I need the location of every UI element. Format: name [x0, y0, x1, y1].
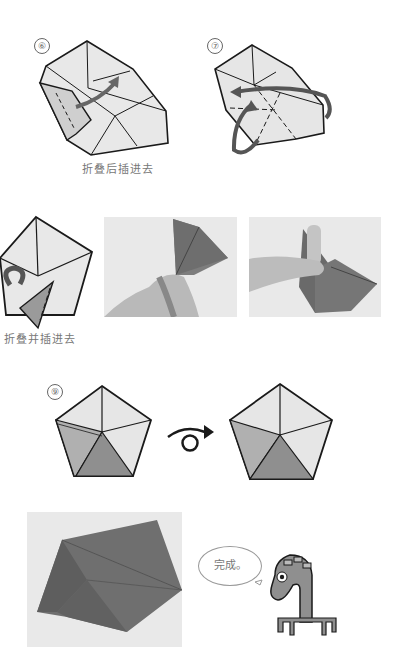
mascot-character: [0, 0, 395, 650]
